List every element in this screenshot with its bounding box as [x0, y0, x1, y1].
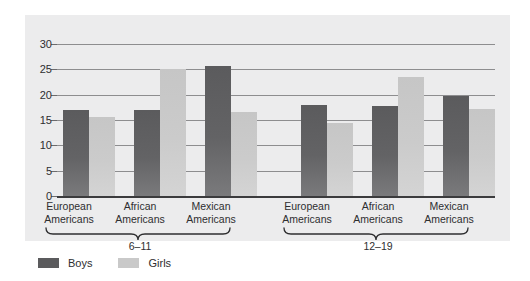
category-label-mexican-americans-6-11: Mexican Americans — [179, 200, 243, 226]
bar-girls-mexican-americans-6-11 — [231, 112, 257, 196]
gridline-30 — [57, 44, 495, 45]
y-axis-label-5: 5 — [18, 166, 52, 177]
category-label-line1: European — [275, 200, 339, 213]
bar-boys-african-americans-12-19 — [372, 106, 398, 196]
y-axis-label-30: 30 — [18, 39, 52, 50]
legend-item-boys: Boys — [38, 258, 92, 269]
category-label-line1: African — [346, 200, 410, 213]
bar-boys-african-americans-6-11 — [134, 110, 160, 196]
category-label-line2: Americans — [275, 213, 339, 226]
chart-legend: Boys Girls — [38, 256, 197, 270]
bar-boys-european-americans-6-11 — [63, 110, 89, 196]
bar-boys-mexican-americans-6-11 — [205, 66, 231, 196]
y-axis-label-15: 15 — [18, 115, 52, 126]
category-label-european-americans-6-11: European Americans — [37, 200, 101, 226]
bar-chart-figure: 30 25 20 15 10 5 0 European A — [0, 0, 530, 281]
bar-girls-mexican-americans-12-19 — [469, 109, 495, 196]
bar-girls-european-americans-6-11 — [89, 117, 115, 196]
bar-girls-african-americans-12-19 — [398, 77, 424, 196]
gridline-15 — [57, 120, 495, 121]
y-axis-labels: 30 25 20 15 10 5 0 — [14, 44, 52, 196]
category-label-european-americans-12-19: European Americans — [275, 200, 339, 226]
gridline-20 — [57, 95, 495, 96]
category-label-line1: African — [108, 200, 172, 213]
category-label-line2: Americans — [346, 213, 410, 226]
bar-girls-european-americans-12-19 — [327, 123, 353, 196]
category-label-line1: European — [37, 200, 101, 213]
y-axis-label-10: 10 — [18, 140, 52, 151]
x-axis-line — [57, 196, 495, 198]
bar-girls-african-americans-6-11 — [160, 69, 186, 196]
legend-swatch-girls-icon — [118, 258, 139, 268]
x-axis-category-labels: European Americans African Americans Mex… — [0, 200, 530, 234]
plot-area — [57, 44, 495, 196]
bar-boys-mexican-americans-12-19 — [443, 96, 469, 196]
category-label-mexican-americans-12-19: Mexican Americans — [417, 200, 481, 226]
category-label-line1: Mexican — [417, 200, 481, 213]
y-axis-label-20: 20 — [18, 90, 52, 101]
category-label-line2: Americans — [417, 213, 481, 226]
bar-boys-european-americans-12-19 — [301, 105, 327, 196]
category-label-line2: Americans — [37, 213, 101, 226]
gridline-5 — [57, 171, 495, 172]
legend-label-girls: Girls — [148, 258, 171, 269]
legend-item-girls: Girls — [118, 258, 171, 269]
legend-label-boys: Boys — [68, 258, 92, 269]
legend-swatch-boys-icon — [38, 258, 59, 268]
category-label-line2: Americans — [108, 213, 172, 226]
gridline-25 — [57, 69, 495, 70]
group-label-12-19: 12–19 — [346, 240, 410, 252]
category-label-african-americans-12-19: African Americans — [346, 200, 410, 226]
group-label-6-11: 6–11 — [108, 240, 172, 252]
category-label-line2: Americans — [179, 213, 243, 226]
y-axis-label-25: 25 — [18, 64, 52, 75]
category-label-line1: Mexican — [179, 200, 243, 213]
gridline-10 — [57, 145, 495, 146]
category-label-african-americans-6-11: African Americans — [108, 200, 172, 226]
